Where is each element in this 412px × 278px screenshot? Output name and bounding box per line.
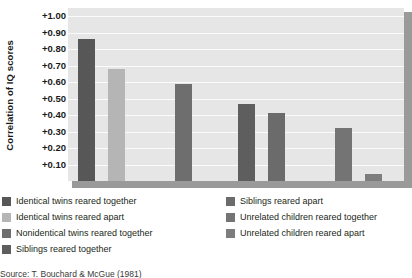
legend-item-label: Unrelated children reared apart (240, 228, 365, 239)
legend-swatch-icon (226, 197, 235, 206)
y-axis-title-label: Correlation of IQ scores (4, 40, 15, 151)
legend-item-label: Siblings reared apart (240, 196, 323, 207)
y-axis-tick-040: +0.40 (42, 110, 66, 120)
bar-2 (108, 69, 125, 181)
legend-item-label: Siblings reared together (16, 244, 112, 255)
chart-legend: Identical twins reared togetherIdentical… (2, 194, 410, 260)
y-axis-tick-070: +0.70 (42, 61, 66, 71)
y-axis-tick-050: +0.50 (42, 94, 66, 104)
legend-item: Nonidentical twins reared together (2, 226, 202, 241)
gridline (68, 33, 404, 34)
legend-column-right: Siblings reared apartUnrelated children … (226, 194, 412, 242)
legend-swatch-icon (2, 213, 11, 222)
legend-item: Siblings reared together (2, 242, 202, 257)
legend-item-label: Nonidentical twins reared together (16, 228, 153, 239)
legend-column-left: Identical twins reared togetherIdentical… (2, 194, 202, 258)
gridline (68, 66, 404, 67)
bar-7 (365, 174, 382, 181)
chart-plot-frame (68, 8, 408, 184)
bar-6 (335, 128, 352, 181)
legend-item-label: Identical twins reared together (16, 196, 137, 207)
chart-plot-area (68, 8, 404, 181)
y-axis-tick-090: +0.90 (42, 28, 66, 38)
bar-1 (78, 39, 95, 181)
y-axis-tick-labels: +1.00+0.90+0.80+0.70+0.60+0.50+0.40+0.30… (18, 8, 68, 186)
legend-item: Siblings reared apart (226, 194, 412, 209)
legend-item: Unrelated children reared apart (226, 226, 412, 241)
legend-item-label: Unrelated children reared together (240, 212, 377, 223)
y-axis-title: Correlation of IQ scores (0, 8, 18, 183)
source-attribution: Source: T. Bouchard & McGue (1981) (0, 269, 142, 278)
legend-swatch-icon (226, 213, 235, 222)
gridline (68, 16, 404, 17)
gridline (68, 49, 404, 50)
bar-4 (238, 104, 255, 181)
y-axis-tick-030: +0.30 (42, 127, 66, 137)
y-axis-tick-100: +1.00 (42, 11, 66, 21)
legend-swatch-icon (2, 245, 11, 254)
y-axis-tick-080: +0.80 (42, 44, 66, 54)
y-axis-tick-060: +0.60 (42, 77, 66, 87)
legend-swatch-icon (2, 197, 11, 206)
legend-item: Unrelated children reared together (226, 210, 412, 225)
bar-5 (268, 113, 285, 181)
legend-item: Identical twins reared apart (2, 210, 202, 225)
legend-swatch-icon (226, 229, 235, 238)
legend-swatch-icon (2, 229, 11, 238)
legend-item: Identical twins reared together (2, 194, 202, 209)
bar-3 (175, 84, 192, 181)
y-axis-tick-010: +0.10 (42, 160, 66, 170)
legend-item-label: Identical twins reared apart (16, 212, 124, 223)
y-axis-tick-020: +0.20 (42, 143, 66, 153)
